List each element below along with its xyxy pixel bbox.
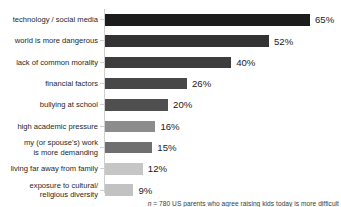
bar-row: world is more dangerous52% [0,30,341,52]
bar-category-label-line: exposure to cultural/ [30,181,98,190]
bar-value-label: 52% [274,30,293,52]
bar-category-label-line: my (or spouse's) work [24,138,98,147]
bar-category-label: exposure to cultural/religious diversity [0,179,98,201]
bar-row: my (or spouse's) workis more demanding15… [0,137,341,159]
axis-tick [100,40,104,41]
bar-category-label: high academic pressure [0,116,98,138]
plot-area: technology / social media65%world is mor… [0,9,341,199]
bar [105,14,310,26]
bar-value-label: 12% [148,158,167,180]
axis-tick [100,190,104,191]
bar [105,78,187,90]
bar-row: financial factors26% [0,73,341,95]
bar-category-label-line: is more demanding [33,148,98,157]
bar-category-label: living far away from family [0,158,98,180]
bar [105,184,133,196]
bar-category-label-line: living far away from family [11,164,98,173]
axis-tick [100,19,104,20]
axis-tick [100,126,104,127]
bar [105,142,152,154]
bar-value-label: 65% [315,9,334,31]
bar [105,163,143,175]
bar-row: technology / social media65% [0,9,341,31]
bar-row: lack of common morality40% [0,52,341,74]
footnote-text: = 780 US parents who agree raising kids … [151,200,339,207]
bar-row: bullying at school20% [0,94,341,116]
bar [105,57,231,69]
bar-category-label: financial factors [0,73,98,95]
bar [105,121,155,133]
bar-category-label: lack of common morality [0,52,98,74]
bar-category-label: bullying at school [0,94,98,116]
bar-category-label: world is more dangerous [0,30,98,52]
bar-row: exposure to cultural/religious diversity… [0,179,341,201]
bar-value-label: 40% [236,52,255,74]
axis-tick [100,147,104,148]
bar-category-label-line: bullying at school [40,100,98,109]
bar-category-label-line: high academic pressure [17,122,98,131]
axis-tick [100,104,104,105]
bar-row: living far away from family12% [0,158,341,180]
bar [105,99,168,111]
bar-value-label: 9% [138,179,152,201]
axis-tick [100,83,104,84]
bar-category-label-line: financial factors [45,79,98,88]
bar-value-label: 15% [157,137,176,159]
bar-value-label: 16% [160,116,179,138]
bar-category-label-line: religious diversity [40,190,98,199]
bar-category-label-line: lack of common morality [16,58,98,67]
chart-footnote: n = 780 US parents who agree raising kid… [148,200,339,207]
bar-category-label-line: world is more dangerous [15,36,98,45]
bar [105,35,269,47]
chart-title [150,0,330,3]
bar-value-label: 20% [173,94,192,116]
axis-tick [100,62,104,63]
bar-category-label: my (or spouse's) workis more demanding [0,137,98,159]
bar-category-label: technology / social media [0,9,98,31]
bar-row: high academic pressure16% [0,116,341,138]
bar-category-label-line: technology / social media [13,15,98,24]
bar-value-label: 26% [192,73,211,95]
axis-tick [100,168,104,169]
bar-chart: technology / social media65%world is mor… [0,0,341,207]
